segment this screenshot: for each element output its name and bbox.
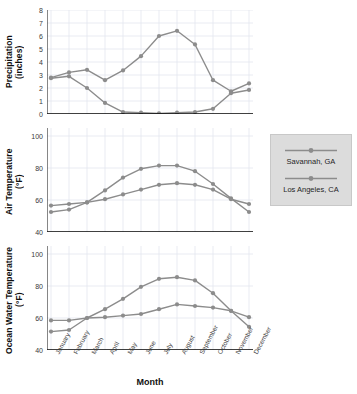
precipitation-y-tick-label: 5 bbox=[21, 46, 43, 53]
air-temperature-plot-area bbox=[47, 128, 253, 232]
x-axis-month-label: December bbox=[252, 326, 272, 356]
legend-key-savannah bbox=[283, 146, 339, 155]
legend-entry-los-angeles[interactable]: Los Angeles, CA bbox=[271, 174, 351, 194]
ocean-water-temperature-plot-area bbox=[47, 246, 253, 350]
precipitation-y-tick-label: 3 bbox=[21, 72, 43, 79]
x-axis-month-labels: JanuaryFebruaryMarchAprilMayJuneJulyAugu… bbox=[47, 351, 253, 394]
x-axis-title: Month bbox=[47, 377, 253, 387]
legend-label-los-angeles: Los Angeles, CA bbox=[271, 185, 351, 194]
air-temperature-y-tick-label: 40 bbox=[21, 229, 43, 236]
precipitation-chart-svg bbox=[47, 10, 253, 114]
precipitation-y-tick-label: 1 bbox=[21, 98, 43, 105]
precipitation-plot-area bbox=[47, 10, 253, 114]
ocean-water-temperature-axis-title-line1: Ocean Water Temperature bbox=[4, 246, 14, 353]
legend-entry-savannah[interactable]: Savannah, GA bbox=[271, 146, 351, 166]
precipitation-y-tick-label: 8 bbox=[21, 7, 43, 14]
air-temperature-axis-title-line1: Air Temperature bbox=[4, 149, 14, 216]
ocean-water-temperature-y-tick-label: 60 bbox=[21, 315, 43, 322]
ocean-water-temperature-axis-title-line2: (°F) bbox=[14, 293, 24, 308]
precipitation-y-tick-label: 4 bbox=[21, 59, 43, 66]
precipitation-y-tick-label: 2 bbox=[21, 85, 43, 92]
precipitation-axis-title-line1: Precipitation bbox=[4, 36, 14, 89]
ocean-water-temperature-y-tick-label: 100 bbox=[21, 251, 43, 258]
legend: Savannah, GA Los Angeles, CA bbox=[270, 134, 352, 206]
ocean-water-temperature-chart-svg bbox=[47, 246, 253, 350]
air-temperature-axis-title: Air Temperature (°F) bbox=[4, 132, 26, 232]
air-temperature-chart-svg bbox=[47, 128, 253, 232]
precipitation-y-tick-label: 7 bbox=[21, 20, 43, 27]
weather-comparison-figure: Precipitation (inches) 012345678 Air Tem… bbox=[0, 0, 357, 394]
ocean-water-temperature-y-tick-label: 40 bbox=[21, 347, 43, 354]
air-temperature-y-tick-label: 60 bbox=[21, 197, 43, 204]
precipitation-y-tick-label: 6 bbox=[21, 33, 43, 40]
air-temperature-y-tick-label: 80 bbox=[21, 165, 43, 172]
legend-label-savannah: Savannah, GA bbox=[271, 157, 351, 166]
legend-key-los-angeles bbox=[283, 174, 339, 183]
ocean-water-temperature-axis-title: Ocean Water Temperature (°F) bbox=[4, 244, 26, 356]
air-temperature-y-tick-label: 100 bbox=[21, 133, 43, 140]
precipitation-y-tick-label: 0 bbox=[21, 111, 43, 118]
air-temperature-axis-title-line2: (°F) bbox=[14, 175, 24, 190]
ocean-water-temperature-y-tick-label: 80 bbox=[21, 283, 43, 290]
